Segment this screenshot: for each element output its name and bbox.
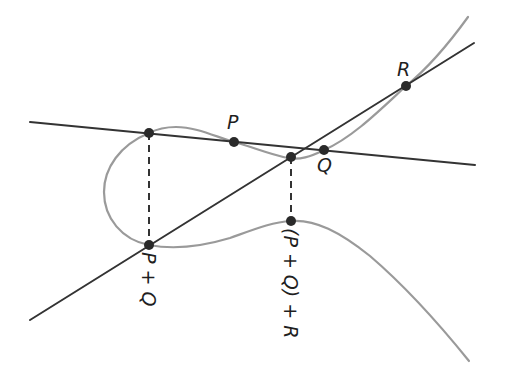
point-intersection-pqr [286, 152, 296, 162]
point-p-plus-q [144, 240, 154, 250]
label-pq-plus-r: (P + Q) + R [280, 228, 302, 338]
point-p [229, 137, 239, 147]
label-p: P [227, 111, 239, 133]
line-through-p-q [30, 122, 475, 165]
label-q: Q [317, 154, 332, 176]
point-intersection-pq [144, 128, 154, 138]
elliptic-curve-upper-branch [104, 17, 468, 245]
point-pq-plus-r [286, 216, 296, 226]
label-r: R [397, 58, 410, 80]
elliptic-curve-diagram: P Q R P + Q (P + Q) + R [0, 0, 506, 371]
elliptic-curve-lower-branch [149, 221, 469, 361]
label-p-plus-q: P + Q [138, 252, 160, 306]
point-r [401, 81, 411, 91]
